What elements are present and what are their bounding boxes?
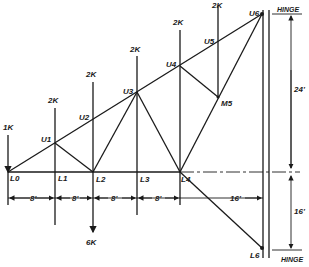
dim-label-panel2: 8' [72, 194, 79, 203]
web-l2-u3 [93, 92, 137, 172]
node-label-u6: U6 [249, 9, 260, 18]
node-label-m5: M5 [221, 99, 233, 108]
node-l6 [260, 246, 264, 250]
web-u4-m5 [180, 66, 218, 97]
node-label-l0: L0 [10, 174, 20, 183]
node-label-l3: L3 [140, 175, 150, 184]
node-label-u5: U5 [204, 37, 215, 46]
node-label-u2: U2 [79, 113, 90, 122]
load-label-u4: 2K [172, 18, 184, 27]
node-label-l4: L4 [181, 175, 191, 184]
load-label-u5: 2K [211, 1, 223, 10]
web-u1-l2 [55, 143, 93, 172]
node-u6 [260, 12, 264, 16]
dim-label-panel3: 8' [111, 194, 118, 203]
load-label-l0: 1K [3, 123, 14, 132]
dim-label-16-horizontal: 16' [230, 194, 242, 203]
load-label-u2: 2K [85, 70, 97, 79]
hinge-bottom-label: HINGE [281, 256, 304, 263]
node-label-u3: U3 [123, 87, 134, 96]
node-label-l6: L6 [250, 251, 260, 260]
load-label-l2: 6K [86, 238, 97, 247]
node-label-l2: L2 [96, 175, 106, 184]
node-label-u1: U1 [41, 135, 52, 144]
top-chord [8, 14, 262, 172]
dim-label-16-vertical: 16' [294, 207, 306, 216]
truss-diagram: 1K 2K 2K 2K 2K 2K 6K L0 L1 L2 L3 L4 L6 U… [0, 0, 309, 267]
diagonal-l4-l6 [180, 172, 262, 248]
node-label-u4: U4 [166, 60, 177, 69]
load-label-u1: 2K [47, 96, 59, 105]
dim-label-24: 24' [293, 85, 306, 94]
dim-label-panel1: 8' [30, 194, 37, 203]
node-label-l1: L1 [58, 174, 68, 183]
load-label-u3: 2K [129, 45, 141, 54]
dim-label-panel4: 8' [155, 194, 162, 203]
node-m5 [217, 96, 220, 99]
diagonal-l4-u6 [180, 14, 262, 172]
hinge-top-label: HINGE [277, 6, 300, 13]
web-u3-l4 [137, 92, 180, 172]
